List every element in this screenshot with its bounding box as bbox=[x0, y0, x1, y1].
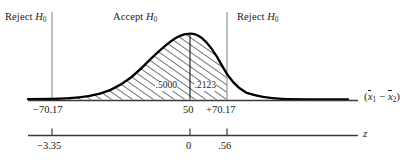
reject-left-text: Reject bbox=[5, 11, 32, 22]
x-axis-tick-label-high: +70.17 bbox=[206, 105, 236, 116]
z-axis-tick-label-low: −3.35 bbox=[37, 141, 61, 152]
accept-center-sub: 0 bbox=[154, 16, 158, 24]
reject-right-h: H bbox=[267, 11, 275, 22]
accept-center-text: Accept bbox=[113, 11, 143, 22]
z-axis-tick-label-mid: 0 bbox=[186, 141, 191, 152]
z-axis-name: z bbox=[363, 128, 367, 139]
x-axis-name: (x1 − x2) bbox=[364, 91, 400, 102]
region-label-reject-left: Reject H0 bbox=[5, 12, 47, 23]
reject-left-h: H bbox=[35, 11, 43, 22]
reject-right-sub: 0 bbox=[275, 16, 279, 24]
z-axis-ticks bbox=[52, 129, 227, 136]
x-axis-name-x2-sub: 2 bbox=[393, 96, 397, 104]
reject-right-text: Reject bbox=[237, 11, 264, 22]
region-label-reject-right: Reject H0 bbox=[237, 12, 279, 23]
hypothesis-test-distribution-figure: Reject H0 Accept H0 Reject H0 .5000 .212… bbox=[0, 0, 419, 162]
x-axis-name-close: ) bbox=[396, 90, 400, 102]
x-axis-tick-label-low: −70.17 bbox=[33, 105, 63, 116]
reject-left-sub: 0 bbox=[43, 16, 47, 24]
region-label-accept-center: Accept H0 bbox=[113, 12, 157, 23]
area-probability-label-left: .5000 bbox=[155, 81, 177, 91]
accept-center-h: H bbox=[146, 11, 154, 22]
x-axis-name-x1-sub: 1 bbox=[373, 96, 377, 104]
x-axis-name-x1: x bbox=[368, 91, 373, 102]
x-axis-tick-label-mid: 50 bbox=[183, 105, 194, 116]
x-axis-name-minus: − bbox=[379, 90, 385, 102]
area-probability-label-right: .2123 bbox=[194, 81, 216, 91]
z-axis-tick-label-high: .56 bbox=[218, 141, 231, 152]
